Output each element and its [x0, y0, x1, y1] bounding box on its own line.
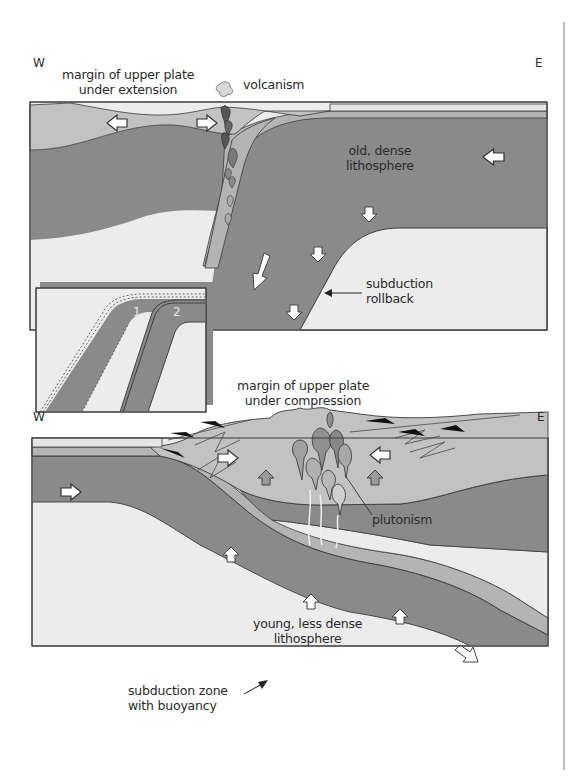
- upper-plate-compression-label: margin of upper plate under compression: [237, 378, 369, 408]
- subduction-rollback-label: subduction rollback: [366, 276, 433, 306]
- subduction-zone-buoyancy-label: subduction zone with buoyancy: [128, 683, 228, 713]
- buoyancy-line-1: subduction zone: [128, 683, 228, 698]
- top-east-label: E: [535, 56, 543, 70]
- plutonism-label: plutonism: [372, 512, 432, 527]
- rollback-line-2: rollback: [366, 291, 433, 306]
- upper-plate-extension-line-2: under extension: [62, 82, 194, 97]
- rollback-line-1: subduction: [366, 276, 433, 291]
- top-panel: [30, 82, 547, 412]
- inset-slab-label-2: 2: [173, 305, 181, 319]
- young-line-2: lithosphere: [253, 631, 362, 646]
- top-west-label: W: [33, 56, 45, 70]
- bottom-east-label: E: [537, 410, 545, 424]
- young-line-1: young, less dense: [253, 616, 362, 631]
- old-dense-line-2: lithosphere: [346, 158, 414, 173]
- bottom-west-label: W: [33, 410, 45, 424]
- old-dense-lithosphere-label: old, dense lithosphere: [346, 143, 414, 173]
- young-less-dense-lithosphere-label: young, less dense lithosphere: [253, 616, 362, 646]
- volcanism-label: volcanism: [243, 77, 304, 92]
- inset-slab-label-1: 1: [133, 305, 141, 319]
- bottom-panel: [32, 408, 548, 694]
- upper-plate-compression-line-1: margin of upper plate: [237, 378, 369, 393]
- upper-plate-extension-label: margin of upper plate under extension: [62, 67, 194, 97]
- upper-plate-extension-line-1: margin of upper plate: [62, 67, 194, 82]
- buoyancy-line-2: with buoyancy: [128, 698, 228, 713]
- upper-plate-compression-line-2: under compression: [237, 393, 369, 408]
- old-dense-line-1: old, dense: [346, 143, 414, 158]
